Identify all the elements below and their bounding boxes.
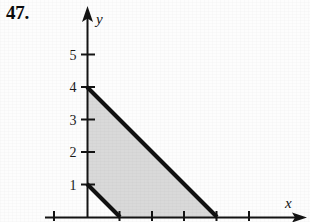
y-tick-label-2: 2 <box>70 145 77 160</box>
y-tick-label-4: 4 <box>70 80 77 95</box>
y-tick-label-5: 5 <box>70 48 77 63</box>
figure-page: 47. 5 4 3 2 1 y <box>0 0 310 222</box>
y-axis-label: y <box>94 11 103 27</box>
x-axis-label: x <box>284 195 292 211</box>
y-tick-label-3: 3 <box>70 113 77 128</box>
y-tick-label-1: 1 <box>70 178 77 193</box>
coordinate-plane-figure: 5 4 3 2 1 y x <box>0 0 310 222</box>
